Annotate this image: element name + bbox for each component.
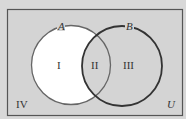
venn-diagram: A B I II III IV U [0, 0, 186, 119]
region-iv-label: IV [16, 98, 28, 110]
region-ii-label: II [91, 59, 99, 71]
region-iii-label: III [123, 59, 134, 71]
region-i-label: I [57, 59, 61, 71]
set-b-label: B [126, 20, 133, 32]
universe-label: U [167, 98, 176, 110]
set-a-label: A [57, 20, 65, 32]
